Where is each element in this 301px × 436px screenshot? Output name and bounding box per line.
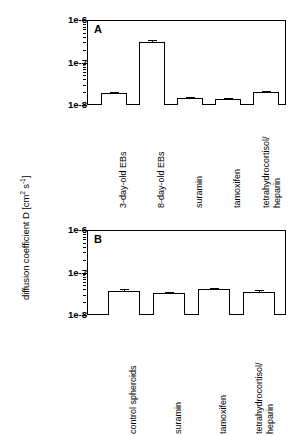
panel-b-y-axis: 1e-6 1e-7 1e-8: [45, 230, 87, 315]
category-label-text: tetrahydrocortisol/heparin: [261, 136, 282, 208]
category-label-text: 8-day-old EBs: [156, 151, 167, 208]
panel-a-letter: A: [94, 23, 102, 35]
category-label-line: 3-day-old EBs: [118, 151, 129, 208]
category-label-line: tetrahydrocortisol/: [261, 136, 272, 208]
minor-tick-mark: [83, 252, 86, 253]
panel-a-plot: A: [87, 20, 286, 105]
error-bar-cap: [255, 290, 264, 291]
category-label-line: 8-day-old EBs: [156, 151, 167, 208]
category-label-line: suramin: [194, 176, 205, 208]
error-bar-cap: [165, 292, 174, 293]
minor-tick-mark: [83, 67, 86, 68]
minor-tick-mark: [83, 232, 86, 233]
bar: [153, 293, 185, 315]
minor-tick-mark: [83, 29, 86, 30]
minor-tick-mark: [83, 69, 86, 70]
category-label-text: tamoxifen: [218, 395, 229, 434]
minor-tick-mark: [83, 85, 86, 86]
panel-b-category-labels: control spheroidssuramintamoxifentetrahy…: [87, 316, 286, 436]
error-bar-cap: [224, 98, 233, 99]
error-bar-cap: [120, 289, 129, 290]
bar: [108, 291, 140, 315]
minor-tick-mark: [83, 279, 86, 280]
minor-tick-mark: [83, 42, 86, 43]
y-axis-title: diffusion coefficient D [cm2 s-1]: [0, 0, 26, 330]
category-label-line: tetrahydrocortisol/: [254, 362, 265, 434]
minor-tick-mark: [83, 234, 86, 235]
category-label-line: heparin: [272, 136, 283, 208]
minor-tick-mark: [83, 72, 86, 73]
bar: [243, 292, 275, 315]
bar: [253, 92, 279, 105]
minor-tick-mark: [83, 247, 86, 248]
panel-b-bars: [87, 230, 286, 315]
category-label-line: heparin: [264, 362, 275, 434]
bar: [177, 98, 203, 105]
minor-tick-mark: [83, 37, 86, 38]
error-bar-cap: [186, 97, 195, 98]
y-axis-title-text: diffusion coefficient D [cm2 s-1]: [20, 176, 31, 300]
minor-tick-mark: [83, 302, 86, 303]
minor-tick-mark: [83, 22, 86, 23]
minor-tick-mark: [83, 260, 86, 261]
error-bar-cap: [148, 40, 157, 41]
category-label-text: 3-day-old EBs: [118, 151, 129, 208]
minor-tick-mark: [83, 295, 86, 296]
y-axis-title-main: diffusion coefficient D [cm: [20, 195, 31, 300]
minor-tick-mark: [83, 277, 86, 278]
category-label-text: suramin: [194, 176, 205, 208]
panel-b-letter: B: [94, 233, 102, 245]
category-label-line: tamoxifen: [218, 395, 229, 434]
panel-a-y-axis: 1e-6 1e-7 1e-8: [45, 20, 87, 105]
minor-tick-mark: [83, 64, 86, 65]
minor-tick-mark: [83, 289, 86, 290]
error-bar-cap: [110, 92, 119, 93]
minor-tick-mark: [83, 243, 86, 244]
y-axis-title-end: ]: [20, 176, 31, 179]
category-label-line: tamoxifen: [232, 169, 243, 208]
minor-tick-mark: [83, 274, 86, 275]
minor-tick-mark: [83, 33, 86, 34]
minor-tick-mark: [83, 92, 86, 93]
panel-a-category-labels: 3-day-old EBs8-day-old EBssuramintamoxif…: [87, 106, 286, 210]
y-axis-title-superscript-2: 2: [19, 191, 26, 195]
minor-tick-mark: [83, 79, 86, 80]
category-label-line: suramin: [173, 402, 184, 434]
y-axis-title-superscript-minus1: -1: [19, 178, 26, 184]
y-axis-title-mid: s: [20, 184, 31, 191]
panel-b-plot: B: [87, 230, 286, 315]
bar: [198, 289, 230, 315]
category-label-text: tamoxifen: [232, 169, 243, 208]
minor-tick-mark: [83, 239, 86, 240]
category-label-text: suramin: [173, 402, 184, 434]
category-label-text: control spheroids: [128, 365, 139, 434]
minor-tick-mark: [83, 285, 86, 286]
minor-tick-mark: [83, 75, 86, 76]
minor-tick-mark: [83, 27, 86, 28]
category-label-text: tetrahydrocortisol/heparin: [254, 362, 275, 434]
panel-a-bars: [87, 20, 286, 105]
bar: [215, 99, 241, 105]
minor-tick-mark: [83, 237, 86, 238]
minor-tick-mark: [83, 282, 86, 283]
bar: [139, 42, 165, 105]
error-bar-cap: [210, 288, 219, 289]
minor-tick-mark: [83, 24, 86, 25]
error-bar-cap: [262, 91, 271, 92]
category-label-line: control spheroids: [128, 365, 139, 434]
minor-tick-mark: [83, 50, 86, 51]
bar: [101, 93, 127, 105]
